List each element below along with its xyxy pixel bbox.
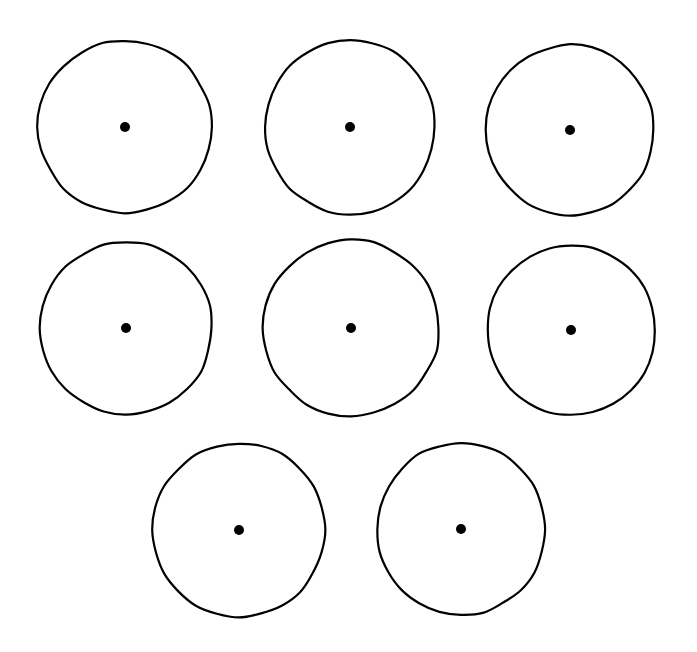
center-dot [565, 125, 575, 135]
center-dot [121, 323, 131, 333]
center-dot [345, 122, 355, 132]
circles-figure [0, 0, 697, 652]
center-dot [234, 525, 244, 535]
figure-canvas-container [0, 0, 697, 652]
center-dot [346, 323, 356, 333]
center-dot [120, 122, 130, 132]
center-dot [566, 325, 576, 335]
center-dot [456, 524, 466, 534]
